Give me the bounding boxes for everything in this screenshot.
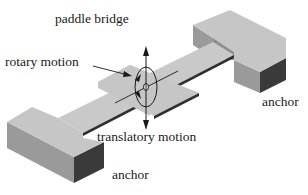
label-translatory-motion: translatory motion	[97, 130, 196, 144]
label-paddle-bridge: paddle bridge	[55, 12, 129, 26]
arrow-up-icon	[143, 46, 149, 56]
label-anchor-right: anchor	[262, 95, 299, 109]
diagram-canvas: paddle bridge rotary motion translatory …	[0, 0, 308, 195]
label-anchor-left: anchor	[112, 168, 149, 182]
label-rotary-motion: rotary motion	[5, 55, 79, 69]
